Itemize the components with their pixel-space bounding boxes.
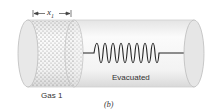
gas-label: Gas 1 (41, 91, 62, 100)
right-end-cap (184, 20, 204, 87)
left-end-cap (18, 20, 38, 87)
dimension-label: x1 (47, 7, 54, 19)
piston (65, 20, 83, 87)
panel-label: (b) (104, 100, 113, 109)
evacuated-label: Evacuated (112, 73, 150, 82)
cylinder-diagram (0, 0, 219, 112)
